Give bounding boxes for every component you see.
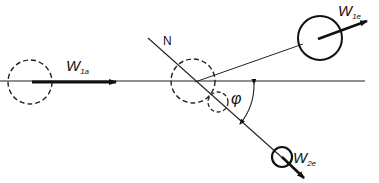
w1e-label: W1e xyxy=(338,2,362,21)
angle-arc xyxy=(240,84,254,124)
angle-label: φ xyxy=(231,90,241,107)
target-ball xyxy=(208,92,228,112)
collision-diagram: W1a N W1e W2e φ xyxy=(0,0,379,183)
w1e-direction-line xyxy=(195,44,303,82)
w2e-label: W2e xyxy=(293,149,317,168)
normal-label: N xyxy=(163,34,172,48)
w1a-label: W1a xyxy=(66,57,90,76)
